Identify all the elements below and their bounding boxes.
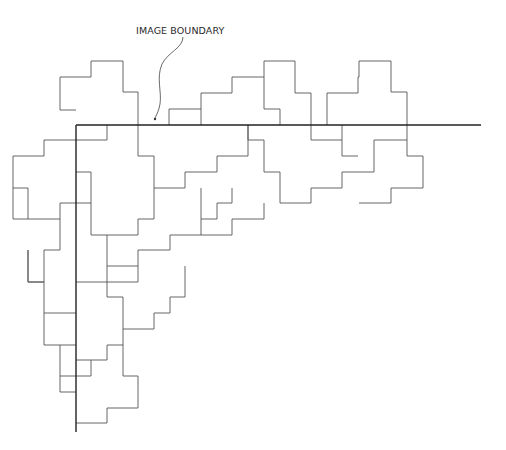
tiling-diagram	[0, 0, 506, 450]
cross-tiles	[13, 61, 423, 423]
tile-edge	[138, 125, 248, 188]
tile-edge	[107, 266, 185, 329]
tile-edge	[13, 188, 28, 219]
tile-edge	[248, 125, 407, 203]
image-boundary-label: IMAGE BOUNDARY	[136, 25, 224, 36]
tile-edge	[327, 61, 423, 203]
tile-edge	[44, 313, 123, 376]
tile-edge	[44, 282, 76, 313]
tile-edge	[169, 61, 311, 125]
tile-edge	[217, 203, 264, 235]
arrow-icon	[155, 37, 183, 118]
tile-edge	[60, 61, 138, 125]
tile-edge	[28, 219, 60, 282]
tile-edge	[28, 250, 44, 282]
tile-edge	[76, 125, 107, 140]
arrow-tip-icon	[154, 118, 156, 120]
tile-edge	[107, 188, 154, 235]
tile-edge	[311, 125, 358, 156]
tile-edge	[60, 376, 76, 392]
tile-edge	[264, 77, 280, 125]
tile-edge	[13, 140, 76, 219]
